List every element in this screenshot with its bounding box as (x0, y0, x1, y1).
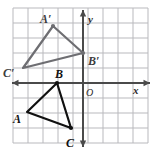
axis-arrowhead-up (80, 10, 86, 17)
coordinate-plane-figure: ABCA′B′C′ x y O (0, 0, 153, 161)
x-axis-label: x (133, 85, 139, 96)
vertex-label-C-prime: C′ (3, 67, 14, 79)
vertex-label-B: B (55, 68, 63, 80)
axis-arrowhead-down (80, 141, 86, 148)
grid-lines (13, 8, 148, 143)
vertex-dot-B (55, 81, 59, 85)
origin-label: O (86, 88, 93, 98)
vertex-dot-C (69, 126, 73, 130)
vertex-label-A: A (13, 113, 21, 125)
y-axis-label: y (88, 14, 93, 25)
triangle-abc (27, 83, 71, 128)
vertex-dot-A-prime (51, 24, 55, 28)
axes (12, 10, 150, 147)
axis-arrowhead-right (144, 80, 151, 86)
vertex-dot-B-prime (81, 51, 85, 55)
triangle-a-prime-b-prime-c-prime (23, 26, 83, 68)
vertex-label-A-prime: A′ (40, 13, 51, 25)
vertex-label-C: C (66, 137, 74, 149)
vertex-label-B-prime: B′ (88, 55, 99, 67)
figure-canvas (0, 0, 153, 161)
